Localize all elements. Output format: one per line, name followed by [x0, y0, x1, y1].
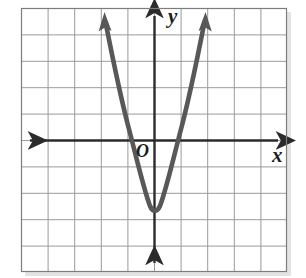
origin-label: O	[136, 142, 149, 160]
parabola-graph-svg	[0, 0, 306, 278]
grid-shadow-right	[287, 12, 291, 274]
grid-shadow-bottom	[25, 272, 291, 276]
y-axis-label: y	[168, 6, 177, 27]
graph-figure: y x O	[0, 0, 306, 278]
x-axis-label: x	[272, 145, 283, 166]
